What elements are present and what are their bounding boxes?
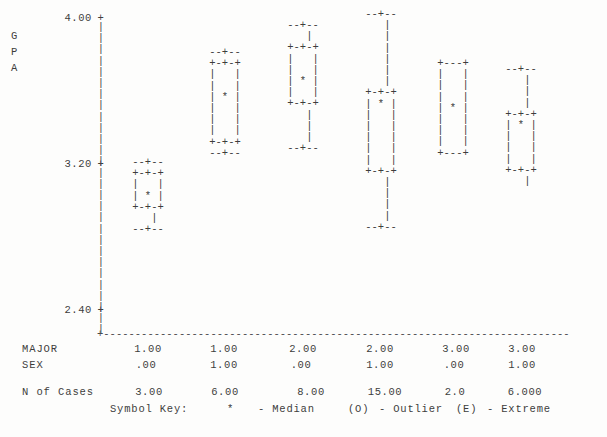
sex-value-6: 1.00 xyxy=(508,360,536,371)
boxplot-group-6: --+-- | | | +-+-+ | * | | | | | | | +-+-… xyxy=(505,64,537,187)
sex-value-2: 1.00 xyxy=(210,360,238,371)
symbol-key-label: Symbol Key: xyxy=(110,404,188,415)
row-label-n-of-cases: N of Cases xyxy=(22,387,94,398)
major-value-4: 2.00 xyxy=(366,344,394,355)
n-of-cases-value-4: 15.00 xyxy=(368,387,403,398)
sex-value-3: .00 xyxy=(291,360,312,371)
boxplot-group-4: --+-- | | | | | | +-+-+ | * | | | | | | … xyxy=(365,9,397,233)
y-tick-label-4.00: 4.00 xyxy=(54,12,92,24)
sex-value-4: 1.00 xyxy=(366,360,394,371)
major-value-5: 3.00 xyxy=(442,344,470,355)
y-tick-label-3.20: 3.20 xyxy=(54,158,92,170)
n-of-cases-value-6: 6.000 xyxy=(508,387,543,398)
boxplot-group-2: --+-- +-+-+ | | | | | * | | | | | | | +-… xyxy=(209,47,241,159)
y-tick-label-2.40: 2.40 xyxy=(54,304,92,316)
major-value-6: 3.00 xyxy=(508,344,536,355)
symbol-key-extreme-text: - Extreme xyxy=(487,404,551,415)
boxplot-group-1: --+-- +-+-+ | | | * | +-+-+ | --+-- xyxy=(132,157,164,235)
sex-value-1: .00 xyxy=(136,360,157,371)
boxplot-group-3: --+-- | +-+-+ | | | | | * | | | +-+-+ | … xyxy=(287,20,319,154)
sex-value-5: .00 xyxy=(444,360,465,371)
row-label-major: MAJOR xyxy=(22,344,58,355)
n-of-cases-value-1: 3.00 xyxy=(135,387,163,398)
y-axis-title-char-p: P xyxy=(11,47,18,58)
symbol-key-outlier-symbol: (O) xyxy=(348,404,369,415)
boxplot-group-5: +---+ | | | | | | | * | | | | | | | +---… xyxy=(437,58,469,159)
major-value-1: 1.00 xyxy=(134,344,162,355)
major-value-2: 1.00 xyxy=(210,344,238,355)
y-axis-line: | | | | | | | | | | | | | | | | | | | | … xyxy=(96,22,106,336)
n-of-cases-value-2: 6.00 xyxy=(211,387,239,398)
x-axis-line: +---------------------------------------… xyxy=(97,328,569,340)
row-label-sex: SEX xyxy=(22,360,44,371)
n-of-cases-value-3: 8.00 xyxy=(297,387,325,398)
n-of-cases-value-5: 2.0 xyxy=(445,387,466,398)
y-axis-title-char-a: A xyxy=(11,63,18,74)
spss-boxplot-output: G P A 4.00 + 3.20 + 2.40 + | | | | | | |… xyxy=(0,0,607,437)
symbol-key-median-symbol: * xyxy=(227,404,234,415)
major-value-3: 2.00 xyxy=(289,344,317,355)
symbol-key-extreme-symbol: (E) xyxy=(456,404,477,415)
symbol-key-median-text: - Median xyxy=(258,404,315,415)
symbol-key-outlier-text: - Outlier xyxy=(379,404,443,415)
y-axis-title-char-g: G xyxy=(11,31,18,42)
